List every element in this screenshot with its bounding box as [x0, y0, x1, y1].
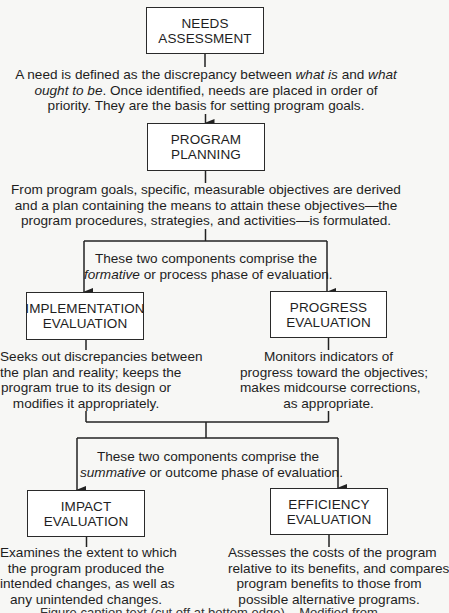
impact-description-line2: the program produced the: [0, 561, 172, 577]
implementation-description-line1: Seeks out discrepancies between: [0, 349, 172, 365]
needs-assessment-label-line2: ASSESSMENT: [158, 31, 251, 46]
progress-description-line4: as appropriate.: [240, 396, 417, 412]
needs-description-line3: priority. They are the basis for setting…: [0, 98, 412, 114]
impact-evaluation-box: IMPACT EVALUATION: [27, 490, 145, 537]
formative-note-line2: formative or process phase of evaluation…: [84, 267, 328, 283]
efficiency-evaluation-label-line1: EFFICIENCY: [288, 497, 369, 512]
progress-description: Monitors indicators of progress toward t…: [240, 349, 417, 411]
progress-evaluation-box: PROGRESS EVALUATION: [270, 291, 387, 338]
efficiency-description: Assesses the costs of the program relati…: [228, 545, 430, 607]
efficiency-evaluation-box: EFFICIENCY EVALUATION: [270, 488, 388, 535]
implementation-description-line3: program true to its design or: [0, 380, 172, 396]
progress-evaluation-label-line2: EVALUATION: [286, 315, 371, 330]
summative-phase-note: These two components comprise the summat…: [80, 449, 336, 480]
progress-description-line2: progress toward the objectives;: [240, 365, 417, 381]
impact-description-line1: Examines the extent to which: [0, 545, 172, 561]
impact-description-line3: intended changes, as well as: [0, 576, 172, 592]
implementation-description-line4: modifies it appropriately.: [0, 396, 172, 412]
progress-description-line3: makes midcourse corrections,: [240, 380, 417, 396]
needs-description-line2: ought to be. Once identified, needs are …: [0, 83, 412, 99]
program-planning-label-line2: PLANNING: [171, 147, 241, 162]
summative-note-line2: summative or outcome phase of evaluation…: [80, 465, 336, 481]
cut-off-caption: Figure caption text (cut off at bottom e…: [0, 606, 430, 613]
impact-description: Examines the extent to which the program…: [0, 545, 172, 607]
implementation-description: Seeks out discrepancies between the plan…: [0, 349, 172, 411]
needs-description-line1: A need is defined as the discrepancy bet…: [0, 67, 412, 83]
formative-phase-note: These two components comprise the format…: [84, 251, 328, 282]
planning-description-line2: and a plan containing the means to attai…: [0, 198, 412, 214]
summative-note-line1: These two components comprise the: [80, 449, 336, 465]
planning-description-line3: program procedures, strategies, and acti…: [0, 213, 412, 229]
needs-assessment-label-line1: NEEDS: [181, 16, 228, 31]
impact-evaluation-label-line2: EVALUATION: [44, 514, 129, 529]
implementation-evaluation-box: IMPLEMENTATION EVALUATION: [26, 292, 144, 340]
program-planning-label-line1: PROGRAM: [171, 132, 241, 147]
efficiency-evaluation-label-line2: EVALUATION: [287, 512, 372, 527]
implementation-evaluation-label-line1: IMPLEMENTATION: [25, 301, 144, 316]
planning-description-line1: From program goals, specific, measurable…: [0, 182, 412, 198]
impact-evaluation-label-line1: IMPACT: [61, 499, 112, 514]
efficiency-description-line3: program benefits to those from: [228, 576, 430, 592]
implementation-description-line2: the plan and reality; keeps the: [0, 365, 172, 381]
efficiency-description-line1: Assesses the costs of the program: [228, 545, 430, 561]
planning-description: From program goals, specific, measurable…: [0, 182, 412, 229]
progress-evaluation-label-line1: PROGRESS: [290, 300, 367, 315]
program-planning-box: PROGRAM PLANNING: [147, 123, 265, 171]
implementation-evaluation-label-line2: EVALUATION: [43, 316, 128, 331]
needs-description: A need is defined as the discrepancy bet…: [0, 67, 412, 114]
formative-note-line1: These two components comprise the: [84, 251, 328, 267]
needs-assessment-box: NEEDS ASSESSMENT: [146, 7, 264, 54]
progress-description-line1: Monitors indicators of: [240, 349, 417, 365]
efficiency-description-line2: relative to its benefits, and compares: [228, 561, 430, 577]
cut-off-caption-text: Figure caption text (cut off at bottom e…: [0, 606, 430, 613]
